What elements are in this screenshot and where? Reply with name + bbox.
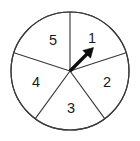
sector-label-3: 3 bbox=[67, 100, 75, 116]
spinner-figure: 1 2 3 4 5 bbox=[0, 0, 140, 141]
sector-label-4: 4 bbox=[32, 74, 40, 90]
sector-label-2: 2 bbox=[103, 74, 111, 90]
sector-label-1: 1 bbox=[88, 30, 96, 46]
spinner-wheel-graphic: 1 2 3 4 5 bbox=[0, 0, 140, 141]
sector-label-5: 5 bbox=[49, 32, 57, 48]
